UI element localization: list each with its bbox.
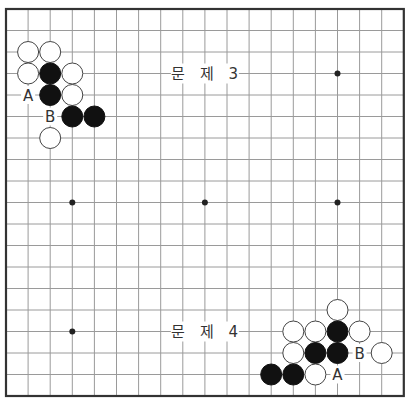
white-stone xyxy=(62,85,83,106)
go-board: 문 제 3문 제 4 ABBA xyxy=(0,0,408,403)
white-stone xyxy=(349,321,370,342)
star-point xyxy=(335,71,341,77)
point-label-b: B xyxy=(45,108,55,126)
white-stone xyxy=(283,321,304,342)
star-point xyxy=(335,200,341,206)
white-stone xyxy=(305,364,326,385)
white-stone xyxy=(40,42,61,63)
black-stone xyxy=(84,106,105,127)
black-stone xyxy=(40,63,61,84)
black-stone xyxy=(305,343,326,364)
point-label-b: B xyxy=(354,345,364,363)
black-stone xyxy=(327,343,348,364)
star-point xyxy=(69,200,75,206)
black-stone xyxy=(283,364,304,385)
black-stone xyxy=(327,321,348,342)
white-stone xyxy=(283,343,304,364)
star-point xyxy=(202,200,208,206)
white-stone xyxy=(40,128,61,149)
white-stone xyxy=(305,321,326,342)
problem-title: 문 제 4 xyxy=(171,323,243,341)
black-stone xyxy=(40,85,61,106)
point-label-a: A xyxy=(332,366,343,384)
white-stone xyxy=(371,343,392,364)
white-stone xyxy=(18,42,39,63)
white-stone xyxy=(62,63,83,84)
white-stone xyxy=(18,63,39,84)
black-stone xyxy=(261,364,282,385)
problem-title: 문 제 3 xyxy=(171,65,243,83)
white-stone xyxy=(327,300,348,321)
black-stone xyxy=(62,106,83,127)
star-point xyxy=(69,329,75,335)
point-label-a: A xyxy=(23,87,34,105)
